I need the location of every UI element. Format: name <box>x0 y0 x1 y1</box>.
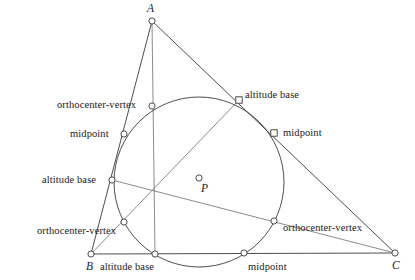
point-label-altitude-base-b: altitude base <box>42 175 96 186</box>
vertex-label-C: C <box>392 260 400 272</box>
point-marker-altitude-base-c[interactable] <box>152 251 158 257</box>
nine-point-markers <box>109 97 277 257</box>
circle-center-marker-P[interactable] <box>196 175 202 181</box>
point-marker-midpoint-ac[interactable] <box>271 130 277 136</box>
point-label-orthocenter-vertex-a: orthocenter-vertex <box>57 100 136 111</box>
point-label-midpoint-ab: midpoint <box>70 129 109 140</box>
vertex-marker-A[interactable] <box>149 18 155 24</box>
nine-point-circle-figure <box>0 0 415 280</box>
point-marker-altitude-base-b[interactable] <box>109 177 115 183</box>
point-label-orthocenter-vertex-c: orthocenter-vertex <box>283 223 362 234</box>
circle-center-label-P: P <box>201 183 208 195</box>
point-label-altitude-base-c: altitude base <box>100 262 154 273</box>
point-marker-altitude-base-a[interactable] <box>236 97 242 103</box>
point-label-midpoint-bc: midpoint <box>248 262 287 273</box>
point-label-midpoint-ac: midpoint <box>283 128 322 139</box>
point-marker-orthocenter-vertex-a[interactable] <box>149 103 155 109</box>
point-marker-midpoint-ab[interactable] <box>121 131 127 137</box>
point-label-altitude-base-a: altitude base <box>245 90 299 101</box>
altitude-from-A <box>152 21 155 254</box>
vertex-marker-C[interactable] <box>392 250 398 256</box>
vertex-label-A: A <box>147 3 154 15</box>
vertex-marker-B[interactable] <box>88 251 94 257</box>
point-label-orthocenter-vertex-b: orthocenter-vertex <box>37 226 116 237</box>
point-marker-midpoint-bc[interactable] <box>241 250 247 256</box>
triangle-sides <box>91 21 395 254</box>
point-marker-orthocenter-vertex-c[interactable] <box>271 218 277 224</box>
altitude-segments <box>91 21 395 254</box>
vertex-label-B: B <box>86 261 93 273</box>
point-marker-orthocenter-vertex-b[interactable] <box>121 219 127 225</box>
